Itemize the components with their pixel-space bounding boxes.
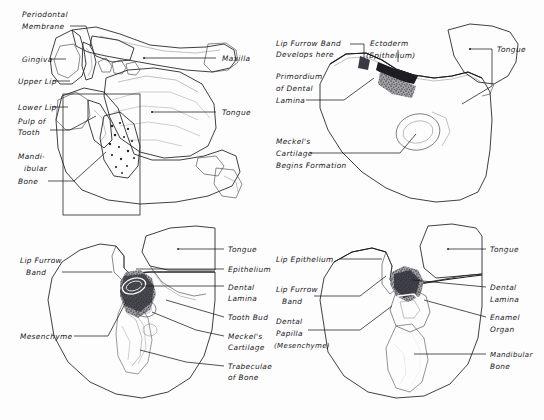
label-ibular: ibular [24,164,48,173]
leader-dot-tongue [151,111,153,113]
label-periodontal: Periodontal [22,10,68,19]
label-tooth: Tooth [18,128,40,137]
label-pulp-of: Pulp of [18,117,47,126]
label-trabeculae: Trabeculae [228,362,272,371]
label-lip-furrow-bl-2: Band [26,268,46,277]
label-lip-furrow-bl-1: Lip Furrow [20,256,63,265]
label-upper-lip: Upper Lip [18,77,57,86]
label-tongue-bl: Tongue [228,245,257,254]
label-cartilage-tr: Cartilage [276,149,313,158]
label-tongue-tr: Tongue [497,45,526,54]
figure-plate: Periodontal Membrane Gingiva Upper Lip L… [0,0,544,420]
label-cartilage-bl: Cartilage [228,343,265,352]
label-lip-furrow-br-1: Lip Furrow [276,285,319,294]
label-organ: Organ [490,325,515,334]
label-lamina-bl: Lamina [228,294,257,303]
label-papilla: Papilla [276,329,303,338]
label-ectoderm: Ectoderm [370,39,408,48]
label-dental-bl: Dental [228,283,255,292]
label-lip-furrow-br-2: Band [282,297,302,306]
label-epithelium-bl: Epithelium [228,265,271,274]
label-meckels-bl: Meckel's [228,332,263,341]
figure-canvas: Periodontal Membrane Gingiva Upper Lip L… [0,0,544,420]
label-lower-lip: Lower Lip [18,103,57,112]
label-membrane: Membrane [22,22,65,31]
label-lip-furrow-band-develops-2: Develops here [276,50,334,59]
label-mesenchyme: Mesenchyme [20,332,72,341]
label-begins-formation: Begins Formation [276,161,347,170]
label-gingiva: Gingiva [22,55,53,64]
leader-dot-tongue-tr [469,48,471,50]
label-mandibular-br: Mandibular [490,351,533,359]
label-of-bone: of Bone [228,373,259,382]
label-maxilla: Maxilla [222,54,251,63]
label-mandi: Mandi- [18,152,45,161]
leader-dot-tongue-br [447,248,449,250]
label-lamina-tr: Lamina [276,96,305,105]
label-tongue-br: Tongue [490,245,519,254]
label-of-dental: of Dental [276,84,314,93]
label-tooth-bud: Tooth Bud [228,313,268,322]
label-bone-br: Bone [490,362,510,371]
leader-dot-tongue-bl [177,248,179,250]
label-bone-tl: Bone [18,177,38,186]
leader-dot-maxilla [143,57,145,59]
page-background [0,0,544,420]
labels-panel-tr-right: Tongue [497,45,526,54]
label-dental-br-r: Dental [490,283,517,292]
labels-panel-bl-right: Tongue Epithelium Dental Lamina Tooth Bu… [228,245,272,382]
label-dental-br: Dental [276,317,303,326]
label-lip-furrow-band-develops-1: Lip Furrow Band [276,39,341,48]
label-tongue-tl: Tongue [222,108,251,117]
label-lamina-br: Lamina [490,295,519,304]
label-epithelium-paren: (Epithelium) [366,51,416,60]
label-meckels-tr: Meckel's [276,137,311,146]
label-primordium: Primordium [276,72,322,81]
label-mesenchyme-paren: (Mesenchyme) [274,342,330,350]
label-lip-epithelium: Lip Epithelium [276,255,334,264]
label-enamel: Enamel [490,313,520,322]
